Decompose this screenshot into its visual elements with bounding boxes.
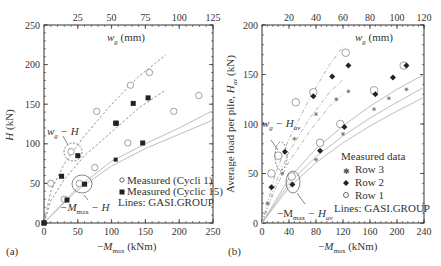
top-x-tick-label: 50 — [107, 12, 117, 23]
x-tick-label: 100 — [104, 226, 119, 237]
x-tick-label: 120 — [336, 226, 351, 237]
data-point-open-circle — [268, 170, 276, 178]
panel-b-legend-row1: Row 1 — [355, 189, 384, 201]
data-point-asterisk — [334, 97, 338, 101]
data-point-open-circle — [94, 108, 100, 114]
panel-a-mmax-h-pointer — [84, 195, 88, 200]
data-point-filled-diamond — [268, 184, 274, 190]
y-tick-label: 200 — [25, 59, 40, 70]
panel-a-wg-h-annotation: wg − H — [47, 125, 80, 140]
legend-open-circle-icon — [120, 178, 124, 182]
top-x-tick-label: 20 — [284, 12, 294, 23]
data-point-asterisk — [314, 158, 318, 162]
data-point-filled-diamond — [345, 63, 351, 69]
top-x-tick-label: 60 — [338, 12, 348, 23]
data-point-open-circle — [342, 49, 350, 57]
y-tick-label: 0 — [35, 218, 40, 229]
top-x-tick-label: 100 — [390, 12, 405, 23]
y-tick-label: 200 — [243, 20, 258, 31]
y-tick-label: 150 — [243, 69, 258, 80]
x-tick-label: 200 — [390, 226, 405, 237]
x-tick-label: 250 — [206, 226, 221, 237]
panel-b-legend: Measured data ✱ Row 3 Row 2 Row 1 Lines:… — [334, 150, 430, 214]
data-point-open-circle — [196, 92, 202, 98]
data-point-asterisk — [341, 132, 345, 136]
data-point-open-circle — [125, 140, 131, 146]
chart-figure: 0501001502002502550751001250501001502002… — [0, 0, 441, 266]
y-tick-label: 250 — [25, 20, 40, 31]
panel-b-wg-hav-annotation: wg − Hav — [262, 117, 301, 132]
panel-b-label: (b) — [228, 245, 241, 258]
y-tick-label: 50 — [30, 178, 40, 189]
x-tick-label: 150 — [138, 226, 153, 237]
x-tick-label: 0 — [42, 226, 47, 237]
legend-filled-square-icon — [120, 190, 125, 195]
top-x-tick-label: 40 — [311, 12, 321, 23]
data-point-asterisk — [372, 107, 376, 111]
data-point-filled-diamond — [317, 148, 323, 154]
panel-b-legend-row2: Row 2 — [355, 176, 384, 188]
panel-a-label: (a) — [6, 245, 19, 258]
data-point-filled-square — [114, 121, 119, 126]
y-tick-label: 100 — [25, 138, 40, 149]
model-line — [262, 47, 343, 223]
data-point-open-circle — [127, 82, 133, 88]
y-tick-label: 50 — [248, 168, 258, 179]
data-point-open-circle — [76, 180, 82, 186]
x-tick-label: 240 — [417, 226, 432, 237]
panel-a-top-axis-title: wg (mm) — [107, 31, 145, 46]
data-point-open-circle — [92, 164, 98, 170]
top-x-tick-label: 75 — [140, 12, 150, 23]
data-point-open-circle — [171, 108, 177, 114]
data-point-filled-square — [59, 174, 64, 179]
data-point-open-circle — [68, 149, 74, 155]
data-point-asterisk — [292, 137, 296, 141]
data-point-asterisk — [280, 172, 284, 176]
y-tick-label: 0 — [253, 218, 258, 229]
top-x-tick-label: 120 — [417, 12, 432, 23]
x-tick-label: 160 — [363, 226, 378, 237]
panel-b-legend-row3: Row 3 — [355, 163, 385, 175]
x-tick-label: 50 — [73, 226, 83, 237]
data-point-filled-diamond — [329, 73, 335, 79]
data-point-open-circle — [288, 173, 296, 181]
panel-b-y-axis-title: Average load per pile, Hav (kN) — [224, 55, 239, 193]
data-point-filled-square — [131, 101, 136, 106]
data-point-asterisk — [314, 112, 318, 116]
panel-b-legend-title: Measured data — [341, 150, 406, 162]
panel-b-mmax-hav-pointer — [297, 193, 305, 204]
panel-a-y-axis-title: H (kN) — [3, 109, 16, 142]
panel-b-legend-note: Lines: GASI.GROUP — [334, 202, 430, 214]
top-x-tick-label: 125 — [206, 12, 221, 23]
panel-b-x-axis-title: −Mmax (kNm) — [318, 240, 378, 255]
data-point-filled-square — [140, 141, 145, 146]
data-point-open-circle — [316, 139, 324, 147]
data-point-filled-square — [82, 182, 87, 187]
panel-b-mmax-hav-annotation: −Mmax − Hav — [277, 207, 333, 222]
data-point-asterisk — [346, 89, 350, 93]
data-point-asterisk — [265, 201, 269, 205]
panel-a-legend: Measured (Cycli 1) Measured (Cyclic 15) … — [118, 174, 223, 208]
top-x-tick-label: 25 — [73, 12, 83, 23]
top-x-tick-label: 80 — [365, 12, 375, 23]
x-tick-label: 80 — [311, 226, 321, 237]
data-point-filled-diamond — [390, 74, 396, 80]
top-x-tick-label: 100 — [172, 12, 187, 23]
panel-a-chart: 0501001502002502550751001250501001502002… — [3, 12, 223, 258]
data-point-open-circle — [48, 180, 54, 186]
legend-asterisk-icon: ✱ — [343, 167, 350, 176]
data-point-filled-square — [75, 153, 80, 158]
x-tick-label: 0 — [260, 226, 265, 237]
panel-a-mmax-h-annotation: −Mmax − H — [60, 201, 111, 216]
data-point-asterisk — [387, 96, 391, 100]
data-point-asterisk — [404, 87, 408, 91]
x-tick-label: 40 — [284, 226, 294, 237]
panel-a-wg-h-pointer — [63, 136, 68, 145]
data-point-filled-square — [42, 221, 47, 226]
panel-b-chart: 0408012016020024020406080100120050100150… — [224, 12, 432, 258]
y-tick-label: 100 — [243, 119, 258, 130]
data-point-open-circle — [146, 69, 152, 75]
y-tick-label: 150 — [25, 99, 40, 110]
data-point-filled-square — [114, 158, 118, 162]
data-point-open-circle — [292, 98, 300, 106]
